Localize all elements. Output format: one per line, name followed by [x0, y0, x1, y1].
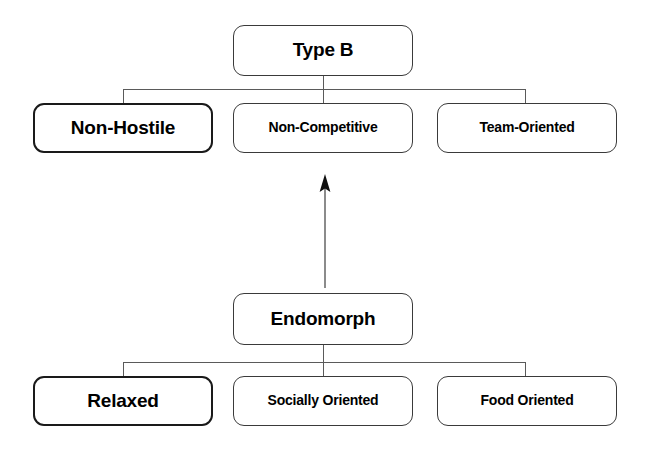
connector-type-b-stem — [323, 76, 324, 89]
node-type-b-label: Type B — [287, 40, 360, 61]
connector-type-b-drop-right — [525, 89, 526, 103]
connector-endomorph-drop-right — [525, 362, 526, 376]
node-food-oriented-label: Food Oriented — [474, 393, 579, 408]
node-team-oriented[interactable]: Team-Oriented — [437, 103, 617, 153]
connector-endomorph-stem — [323, 345, 324, 362]
connector-endomorph-bar — [123, 362, 525, 363]
node-non-hostile[interactable]: Non-Hostile — [33, 103, 213, 153]
node-endomorph-label: Endomorph — [265, 309, 382, 330]
node-endomorph[interactable]: Endomorph — [233, 293, 413, 345]
node-type-b[interactable]: Type B — [233, 25, 413, 76]
node-relaxed[interactable]: Relaxed — [33, 376, 213, 426]
node-socially-oriented-label: Socially Oriented — [262, 393, 385, 408]
connector-endomorph-drop-left — [123, 362, 124, 376]
up-arrow-icon — [310, 172, 340, 288]
connector-type-b-drop-middle — [323, 89, 324, 103]
node-non-competitive-label: Non-Competitive — [262, 120, 383, 135]
node-food-oriented[interactable]: Food Oriented — [437, 376, 617, 426]
node-relaxed-label: Relaxed — [81, 391, 164, 412]
connector-type-b-bar — [123, 89, 525, 90]
connector-type-b-drop-left — [123, 89, 124, 103]
node-socially-oriented[interactable]: Socially Oriented — [233, 376, 413, 426]
node-non-hostile-label: Non-Hostile — [65, 118, 181, 139]
connector-endomorph-drop-middle — [323, 362, 324, 376]
node-non-competitive[interactable]: Non-Competitive — [233, 103, 413, 153]
diagram-canvas: Type B Non-Hostile Non-Competitive Team-… — [0, 0, 647, 450]
node-team-oriented-label: Team-Oriented — [473, 120, 580, 135]
